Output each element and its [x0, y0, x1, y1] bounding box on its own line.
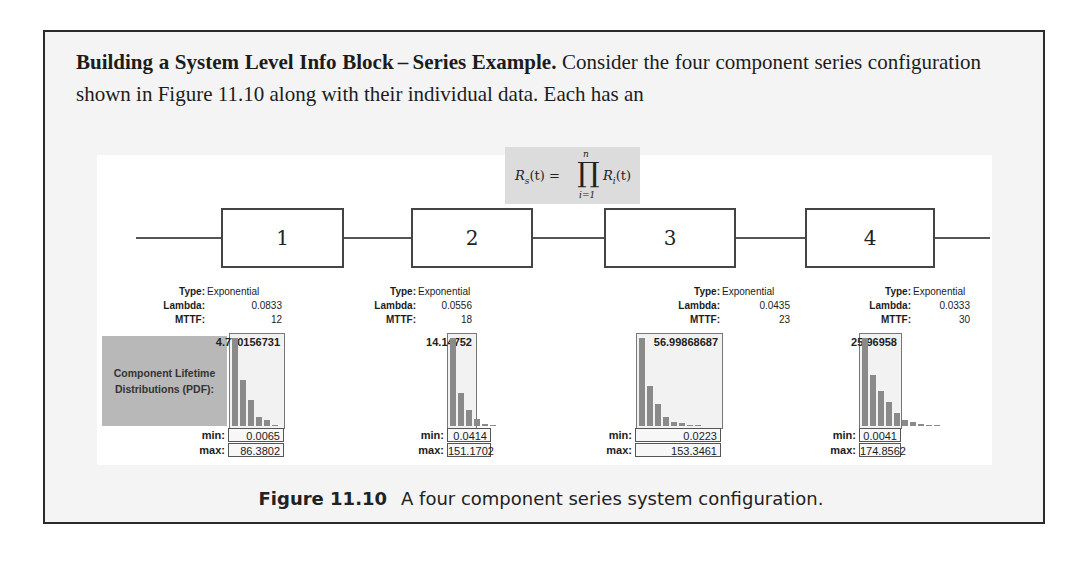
component-3-mttf-value: 23 — [779, 314, 790, 325]
component-1-min-label: min: — [202, 428, 225, 442]
component-4-min-value: 0.0041 — [859, 428, 901, 442]
component-4-lambda-value: 0.0333 — [939, 300, 970, 311]
component-3-max-value: 153.3461 — [635, 443, 721, 457]
component-block-label: 1 — [276, 226, 289, 250]
histogram-bar — [272, 425, 278, 426]
component-2-type-label: Type: — [390, 286, 416, 297]
formula-arg: (t) = — [529, 168, 559, 183]
component-4-lambda-label: Lambda: — [869, 300, 911, 311]
component-2-lambda-value: 0.0556 — [441, 300, 472, 311]
figure-caption-text: A four component series system configura… — [401, 488, 823, 509]
wire-input — [136, 237, 222, 239]
component-1-type-label: Type: — [179, 286, 205, 297]
component-3-peak-value: 56.99868687 — [654, 336, 718, 348]
wire-3-4 — [736, 237, 806, 239]
histogram-bar — [248, 400, 254, 426]
body-paragraph: Building a System Level Info Block – Ser… — [76, 46, 981, 110]
histogram-bar — [886, 402, 892, 426]
series-reliability-formula: Rs(t) = n ∏ i=1 Ri(t) — [505, 147, 640, 204]
component-3-mttf-label: MTTF: — [690, 314, 720, 325]
histogram-bar — [256, 417, 262, 426]
histogram-bar — [926, 425, 932, 426]
component-block-label: 2 — [466, 226, 479, 250]
histogram-bar — [679, 423, 685, 426]
histogram-bar — [450, 338, 456, 426]
histogram-bar — [878, 391, 884, 426]
histogram-bar — [639, 338, 645, 426]
histogram-bar — [671, 422, 677, 426]
histogram-bar — [647, 386, 653, 426]
component-4-pdf-histogram: 25.96958 — [859, 333, 902, 429]
histogram-bar — [240, 380, 246, 426]
histogram-bar — [918, 424, 924, 426]
histogram-bar — [910, 422, 916, 426]
component-block-1: 1 — [221, 208, 344, 268]
histogram-bar — [894, 413, 900, 426]
component-block-2: 2 — [411, 208, 533, 268]
component-3-type-label: Type: — [694, 286, 720, 297]
formula-prod-lower: i=1 — [579, 190, 595, 200]
component-1-max-label: max: — [199, 443, 225, 457]
component-1-max-value: 86.3802 — [228, 443, 284, 457]
pdf-side-label: Component Lifetime Distributions (PDF): — [102, 336, 227, 426]
histogram-bar — [490, 425, 496, 426]
component-4-peak-value: 25.96958 — [851, 336, 897, 348]
component-4-mttf-value: 30 — [959, 314, 970, 325]
component-4-type-label: Type: — [885, 286, 911, 297]
histogram-bar — [870, 375, 876, 426]
component-block-4: 4 — [805, 208, 935, 268]
component-1-min-value: 0.0065 — [228, 428, 284, 442]
histogram-bar — [458, 393, 464, 426]
figure-number: Figure 11.10 — [259, 488, 387, 509]
component-2-pdf-histogram: 14.14752 — [447, 333, 477, 429]
formula-rhs-arg: (t) — [616, 168, 631, 183]
formula-rhs: R — [603, 168, 613, 183]
wire-output — [935, 237, 990, 239]
component-block-label: 3 — [664, 226, 677, 250]
component-2-mttf-label: MTTF: — [386, 314, 416, 325]
component-1-mttf-label: MTTF: — [175, 314, 205, 325]
component-block-3: 3 — [604, 208, 736, 268]
component-2-lambda-label: Lambda: — [374, 300, 416, 311]
histogram-bar — [474, 419, 480, 426]
component-4-type-value: Exponential — [913, 286, 965, 297]
component-3-max-label: max: — [606, 443, 632, 457]
component-1-pdf-histogram: 4.770156731 — [229, 333, 285, 429]
component-2-max-label: max: — [418, 443, 444, 457]
histogram-bar — [232, 338, 238, 426]
component-3-min-label: min: — [609, 428, 632, 442]
component-1-lambda-label: Lambda: — [163, 300, 205, 311]
component-4-max-value: 174.8562 — [859, 443, 901, 457]
histogram-bar — [862, 338, 868, 426]
component-4-max-label: max: — [830, 443, 856, 457]
component-3-lambda-value: 0.0435 — [759, 300, 790, 311]
histogram-bar — [663, 417, 669, 426]
component-2-mttf-value: 18 — [461, 314, 472, 325]
component-2-min-label: min: — [421, 428, 444, 442]
paragraph-text-line1: Consider the four component — [556, 50, 808, 74]
histogram-bar — [655, 404, 661, 426]
component-block-label: 4 — [864, 226, 877, 250]
product-symbol-icon: ∏ — [577, 159, 599, 187]
component-1-peak-value: 4.770156731 — [216, 336, 280, 348]
histogram-bar — [695, 425, 701, 426]
histogram-bar — [264, 420, 270, 426]
component-2-type-value: Exponential — [418, 286, 470, 297]
component-4-min-label: min: — [833, 428, 856, 442]
histogram-bar — [934, 425, 940, 426]
component-2-min-value: 0.0414 — [447, 428, 491, 442]
paragraph-heading: Building a System Level Info Block – Ser… — [76, 50, 551, 74]
component-1-type-value: Exponential — [207, 286, 259, 297]
component-3-pdf-histogram: 56.99868687 — [636, 333, 723, 429]
histogram-bar — [482, 424, 488, 426]
wire-2-3 — [533, 237, 605, 239]
component-2-max-value: 151.1702 — [447, 443, 491, 457]
component-3-lambda-label: Lambda: — [678, 300, 720, 311]
component-3-min-value: 0.0223 — [635, 428, 721, 442]
wire-1-2 — [344, 237, 412, 239]
figure-caption: Figure 11.10A four component series syst… — [0, 488, 1082, 509]
histogram-bar — [466, 410, 472, 426]
component-3-type-value: Exponential — [722, 286, 774, 297]
formula-lhs: R — [515, 168, 525, 183]
histogram-bar — [902, 420, 908, 426]
